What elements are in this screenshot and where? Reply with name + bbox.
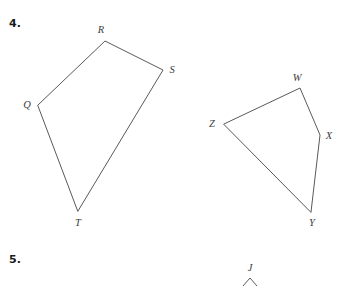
geometry-figure-canvas: Q R S T Z W X Y J xyxy=(0,0,338,286)
quadrilateral-wxyz-outline xyxy=(224,88,320,212)
figure-quadrilateral-qrst: Q R S T xyxy=(23,24,175,228)
angle-j-rays xyxy=(243,278,257,286)
vertex-label-s: S xyxy=(169,64,175,75)
vertex-label-t: T xyxy=(75,217,82,228)
figure-angle-j-partial: J xyxy=(243,262,257,286)
figure-quadrilateral-wxyz: Z W X Y xyxy=(209,72,333,228)
vertex-label-q: Q xyxy=(23,99,31,110)
vertex-label-w: W xyxy=(293,72,303,83)
vertex-label-y: Y xyxy=(309,217,316,228)
worksheet-page: 4. 5. Q R S T Z W X Y J xyxy=(0,0,338,286)
vertex-label-z: Z xyxy=(209,118,215,129)
quadrilateral-qrst-outline xyxy=(38,41,163,211)
vertex-label-j: J xyxy=(248,262,254,273)
vertex-label-r: R xyxy=(97,24,105,35)
vertex-label-x: X xyxy=(325,130,333,141)
